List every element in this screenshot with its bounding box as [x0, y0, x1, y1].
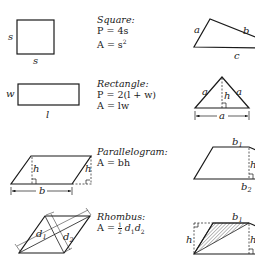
parallelogram-base-label: b: [39, 185, 45, 196]
trapezoid-area-figure: b1 h h: [186, 211, 255, 254]
right-angle-mark: [194, 223, 198, 227]
rectangle-formulas: Rectangle: P = 2(l + w) A = lw: [97, 78, 156, 111]
rhombus-formulas: Rhombus: A = 12 d1d2: [97, 211, 145, 237]
parallelogram-shape: [11, 156, 91, 184]
equilateral-right-side-label: a: [236, 86, 242, 97]
parallelogram-height-label-right: h: [85, 163, 91, 174]
right-angle-mark: [249, 249, 253, 254]
equilateral-triangle-figure: a a h a: [195, 77, 249, 121]
triangle-side-c-label: c: [234, 50, 240, 61]
trapezoid-area-right-height-label: h: [250, 234, 255, 245]
rhombus-area-formula: A = 12 d1d2: [97, 222, 145, 237]
rhombus-diagonal-2-label: d2: [63, 231, 74, 244]
square-figure: s s: [8, 20, 54, 66]
rhombus-diagonal-1-label: d1: [36, 228, 47, 241]
parallelogram-height-label: h: [33, 163, 39, 174]
trapezoid-height-label: h: [250, 159, 255, 170]
right-angle-mark: [249, 174, 253, 179]
square-formulas: Square: P = 4s A = s2: [97, 14, 135, 50]
equilateral-height-label: h: [224, 90, 230, 101]
rectangle-area-formula: A = lw: [97, 100, 156, 111]
rhombus-figure: d1 d2: [15, 208, 91, 253]
shaded-triangle: [194, 223, 249, 254]
square-side-left-label: s: [8, 31, 13, 42]
rectangle-perimeter-formula: P = 2(l + w): [97, 89, 156, 100]
rectangle-length-label: l: [46, 109, 49, 120]
parallelogram-figure: h h b: [11, 156, 92, 196]
parallelogram-area-formula: A = bh: [97, 157, 168, 168]
rectangle-width-label: w: [6, 88, 15, 99]
rectangle-shape: [18, 84, 79, 105]
square-title: Square:: [97, 14, 135, 25]
trapezoid-bottom-base-label: b2: [241, 181, 252, 194]
rectangle-figure: w l: [6, 84, 79, 120]
triangle-figure: a b c: [194, 19, 255, 61]
square-perimeter-formula: P = 4s: [97, 25, 135, 36]
trapezoid-figure: b1 h b2: [194, 136, 255, 194]
equilateral-base-label: a: [219, 110, 225, 121]
parallelogram-formulas: Parallelogram: A = bh: [97, 146, 168, 168]
dimension-tick: [46, 212, 54, 215]
rectangle-title: Rectangle:: [97, 78, 156, 89]
dimension-tick: [86, 208, 91, 215]
rhombus-diagonal-2: [45, 216, 64, 253]
triangle-side-a-label: a: [194, 24, 200, 35]
right-angle-mark: [86, 180, 90, 184]
right-angle-mark: [32, 179, 36, 184]
parallelogram-title: Parallelogram:: [97, 146, 168, 157]
trapezoid-area-left-height-label: h: [186, 234, 192, 245]
square-area-formula: A = s2: [97, 36, 135, 50]
square-side-bottom-label: s: [33, 55, 38, 66]
trapezoid-shape: [194, 147, 255, 179]
right-angle-mark: [222, 103, 226, 108]
equilateral-left-side-label: a: [202, 86, 208, 97]
trapezoid-area-top-label: b1: [232, 211, 243, 224]
triangle-side-b-label: b: [243, 25, 249, 36]
square-shape: [17, 20, 54, 54]
